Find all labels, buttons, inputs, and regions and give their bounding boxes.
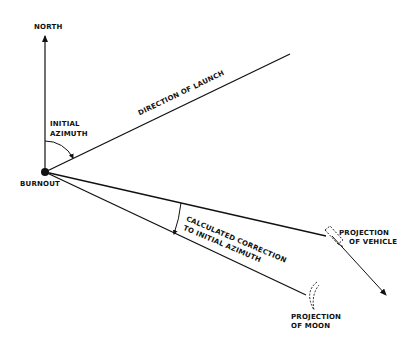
north-label: NORTH [34,23,63,32]
vehicle-label-2: OF VEHICLE [349,238,397,247]
moon-projection-line [45,172,306,295]
moon-label-1: PROJECTION [291,313,341,322]
burnout-point [41,168,49,176]
azimuth-diagram [0,0,416,347]
initial-azimuth-arc [45,141,73,158]
burnout-label: BURNOUT [20,180,60,189]
initial-azimuth-label-1: INITIAL [50,120,80,129]
initial-azimuth-label-2: AZIMUTH [50,130,88,139]
correction-arc [174,203,181,234]
moon-icon [310,282,319,310]
vehicle-label-1: PROJECTION [339,229,389,238]
moon-label-2: OF MOON [291,322,330,331]
launch-direction-line [45,54,290,172]
